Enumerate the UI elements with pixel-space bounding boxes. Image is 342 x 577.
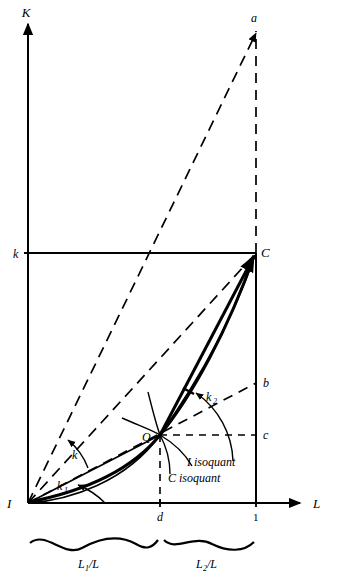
brace-label-left-group: L 1 /L (77, 557, 99, 573)
brace-label-left-main: L (77, 557, 85, 571)
tick-label-one: 1 (253, 511, 259, 523)
annotation-c-isoquant: C isoquant (168, 471, 221, 485)
angle-label-k2-subscript: 2 (213, 397, 217, 406)
point-label-b: b (263, 376, 269, 390)
brace-label-left-tail: /L (88, 557, 99, 571)
tick-label-k: k (13, 247, 19, 261)
brace-label-right-group: L 2 /L (195, 557, 217, 573)
labels-group: K L k I d 1 a C b c Q k k 1 k 2 I isoqua… (6, 5, 320, 573)
braces-group (30, 538, 254, 550)
brace-left (30, 538, 158, 550)
point-label-C: C (261, 245, 270, 260)
point-label-Q: Q (142, 430, 151, 444)
axis-label-K: K (21, 5, 32, 20)
brace-label-right-main: L (195, 557, 203, 571)
point-label-a: a (251, 11, 257, 25)
angle-label-k2: k (206, 390, 212, 404)
angle-label-k2-group: k 2 (206, 390, 217, 406)
angle-label-k1-subscript: 1 (64, 486, 68, 495)
axis-label-L: L (312, 496, 320, 511)
diagram-canvas: K L k I d 1 a C b c Q k k 1 k 2 I isoqua… (0, 0, 342, 577)
brace-right (164, 540, 254, 550)
segment-Q-to-C-solid (160, 256, 254, 435)
isoquant-box-figure: K L k I d 1 a C b c Q k k 1 k 2 I isoqua… (0, 0, 342, 577)
q-arc-upper-left (122, 418, 160, 435)
q-arc-upper (148, 392, 160, 435)
angle-label-k1: k (57, 479, 63, 493)
angle-label-k: k (72, 448, 78, 462)
angle-arc-k (68, 440, 88, 468)
brace-label-right-tail: /L (206, 557, 217, 571)
point-label-I: I (6, 496, 12, 511)
annotation-i-isoquant: I isoquant (186, 455, 236, 469)
tick-label-d: d (157, 510, 164, 524)
point-label-c: c (263, 428, 269, 442)
